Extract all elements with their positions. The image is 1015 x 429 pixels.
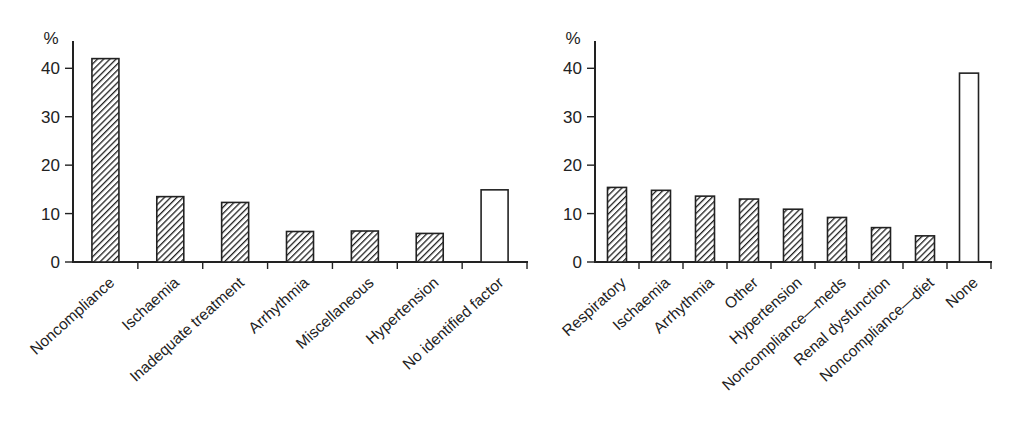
category-label: Other xyxy=(721,274,761,313)
left-chart: 010203040%NoncomplianceIschaemiaInadequa… xyxy=(27,29,527,385)
y-tick-label: 20 xyxy=(41,156,60,175)
y-axis-unit-label: % xyxy=(43,29,58,48)
hatched-bar xyxy=(222,202,249,262)
axes-line xyxy=(73,42,527,262)
hatched-bar xyxy=(92,59,119,262)
hatched-bar xyxy=(351,231,378,262)
category-label: Arrhythmia xyxy=(245,273,312,336)
hatched-bar xyxy=(157,197,184,262)
hatched-bar xyxy=(916,236,935,262)
category-label: Noncompliance xyxy=(27,274,118,358)
hatched-bar xyxy=(740,199,759,262)
hatched-bar xyxy=(652,190,671,262)
y-tick-label: 30 xyxy=(41,108,60,127)
hatched-bar xyxy=(416,233,443,262)
category-label: None xyxy=(942,274,981,311)
y-tick-label: 10 xyxy=(41,205,60,224)
y-tick-label: 10 xyxy=(563,205,582,224)
y-tick-label: 20 xyxy=(563,156,582,175)
y-tick-label: 30 xyxy=(563,108,582,127)
y-tick-label: 40 xyxy=(563,59,582,78)
dual-bar-chart-figure: 010203040%NoncomplianceIschaemiaInadequa… xyxy=(0,0,1015,429)
hatched-bar xyxy=(872,228,891,262)
hatched-bar xyxy=(608,187,627,262)
hatched-bar xyxy=(287,231,314,262)
y-tick-label: 0 xyxy=(573,253,582,272)
hatched-bar xyxy=(696,196,715,262)
right-chart: 010203040%RespiratoryIschaemiaArrhythmia… xyxy=(559,29,991,393)
plain-bar xyxy=(481,190,508,262)
hatched-bar xyxy=(828,217,847,262)
category-label: Inadequate treatment xyxy=(126,273,247,385)
charts-canvas: 010203040%NoncomplianceIschaemiaInadequa… xyxy=(0,0,1015,429)
hatched-bar xyxy=(784,209,803,262)
y-axis-unit-label: % xyxy=(565,29,580,48)
plain-bar xyxy=(960,73,979,262)
category-label: Ischaemia xyxy=(118,273,182,333)
y-tick-label: 40 xyxy=(41,59,60,78)
y-tick-label: 0 xyxy=(51,253,60,272)
